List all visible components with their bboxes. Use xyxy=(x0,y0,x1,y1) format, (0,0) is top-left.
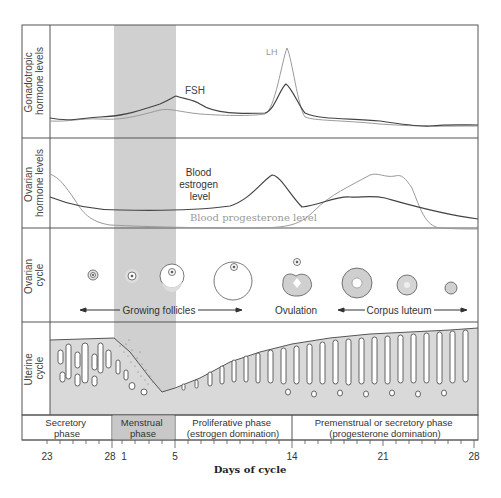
uterine-lining xyxy=(50,328,478,415)
x-axis-title: Days of cycle xyxy=(214,464,287,475)
fsh-label: FSH xyxy=(185,85,205,96)
progesterone-label: Blood progesterone level xyxy=(190,212,317,223)
x-axis-ticks xyxy=(22,440,478,448)
row-label-ovarian-cycle: Ovarian cycle xyxy=(23,256,45,294)
phase-proliferative: Proliferative phase (estrogen domination… xyxy=(187,417,279,439)
row-label-ovarian-hormone: Ovarian hormone levels xyxy=(23,149,45,217)
corpus-luteum-label: Corpus luteum xyxy=(366,305,431,316)
ovulation-label: Ovulation xyxy=(275,305,317,316)
row-label-uterine-cycle: Uterine cycle xyxy=(23,350,45,385)
corpus-luteum xyxy=(342,268,457,298)
phase-premenstrual: Premenstrual or secretory phase (progest… xyxy=(315,417,455,439)
growing-follicles-label: Growing follicles xyxy=(123,305,196,316)
tick-label-21: 21 xyxy=(377,451,389,462)
tick-label-23: 23 xyxy=(41,451,53,462)
menstrual-cycle-diagram: Gonadotropic hormone levels Ovarian horm… xyxy=(0,0,501,498)
tick-label-1: 1 xyxy=(121,451,127,462)
phase-secretory: Secretory phase xyxy=(45,417,88,439)
row-label-gonadotropic: Gonadotropic hormone levels xyxy=(23,47,45,115)
tick-label-5: 5 xyxy=(172,451,178,462)
estrogen-label: Blood estrogen level xyxy=(179,167,221,202)
ovulation-illustration xyxy=(283,259,312,297)
tick-label-14: 14 xyxy=(286,451,298,462)
tick-label-28-prev: 28 xyxy=(104,451,116,462)
lh-label: LH xyxy=(266,47,278,57)
tick-label-28: 28 xyxy=(468,451,480,462)
